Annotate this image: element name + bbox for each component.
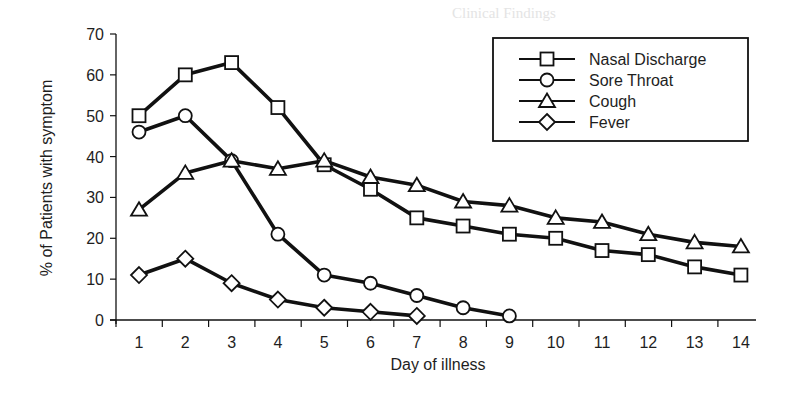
diamond-marker-icon [131,267,147,283]
x-tick-label: 7 [412,334,421,351]
circle-marker-icon [410,289,423,302]
x-tick-label: 5 [320,334,329,351]
x-tick-label: 3 [227,334,236,351]
square-marker-icon [457,220,470,233]
circle-marker-icon [541,74,554,87]
square-marker-icon [541,53,554,66]
y-axis-title: % of Patients with symptom [38,80,55,277]
diamond-marker-icon [363,304,379,320]
series-sore-throat [133,109,516,322]
diamond-marker-icon [409,308,425,324]
square-marker-icon [133,109,146,122]
y-tick-label: 50 [86,108,104,125]
square-marker-icon [596,244,609,257]
square-marker-icon [410,211,423,224]
diamond-marker-icon [270,292,286,308]
square-marker-icon [642,248,655,261]
series-cough [131,153,749,252]
x-tick-label: 8 [459,334,468,351]
circle-marker-icon [364,277,377,290]
legend-item: Nasal Discharge [519,51,706,68]
x-tick-label: 12 [639,334,657,351]
square-marker-icon [225,56,238,69]
y-tick-label: 20 [86,230,104,247]
diamond-marker-icon [224,275,240,291]
y-tick-label: 40 [86,149,104,166]
circle-marker-icon [133,126,146,139]
legend-label: Fever [589,114,631,131]
series-line [139,116,509,316]
legend-label: Cough [589,93,636,110]
x-tick-label: 11 [594,334,611,351]
square-marker-icon [734,269,747,282]
x-tick-label: 4 [273,334,282,351]
x-tick-label: 13 [686,334,704,351]
circle-marker-icon [457,301,470,314]
circle-marker-icon [318,269,331,282]
x-axis-title: Day of illness [390,356,485,373]
legend-label: Nasal Discharge [589,51,706,68]
x-tick-label: 10 [547,334,565,351]
circle-marker-icon [503,309,516,322]
circle-marker-icon [271,228,284,241]
diamond-marker-icon [316,300,332,316]
symptom-line-chart: Clinical Findings ... 010203040506070123… [0,0,807,402]
legend-label: Sore Throat [589,72,674,89]
y-tick-label: 10 [86,271,104,288]
x-tick-label: 14 [732,334,750,351]
x-tick-label: 1 [135,334,144,351]
y-tick-label: 30 [86,189,104,206]
y-tick-label: 70 [86,26,104,43]
square-marker-icon [688,260,701,273]
diamond-marker-icon [177,251,193,267]
x-tick-label: 2 [181,334,190,351]
y-tick-label: 60 [86,67,104,84]
circle-marker-icon [179,109,192,122]
legend: Nasal DischargeSore ThroatCoughFever [493,38,748,141]
square-marker-icon [549,232,562,245]
x-tick-label: 9 [505,334,514,351]
square-marker-icon [364,183,377,196]
square-marker-icon [179,68,192,81]
square-marker-icon [503,228,516,241]
square-marker-icon [271,101,284,114]
x-tick-label: 6 [366,334,375,351]
svg-text:Clinical Findings: Clinical Findings [452,5,556,21]
y-tick-label: 0 [95,312,104,329]
